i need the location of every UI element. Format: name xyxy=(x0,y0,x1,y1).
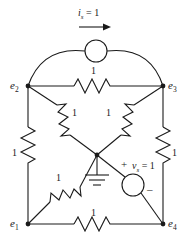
wire-voltage-source-to-e4 xyxy=(141,193,163,224)
resistor-label-bottom: 1 xyxy=(91,208,96,218)
voltage-source-subscript: s xyxy=(136,166,139,174)
resistor-label-e1-center: 1 xyxy=(56,173,61,183)
current-source-branch xyxy=(28,40,163,86)
resistor-e2-center-zigzag xyxy=(57,104,70,136)
voltage-source-plus-sign: + xyxy=(121,159,127,170)
node-label-e2: e2 xyxy=(10,80,19,94)
node-dot-e1 xyxy=(26,222,31,227)
resistor-bottom-zigzag xyxy=(74,217,117,231)
circuit-schematic-canvas xyxy=(0,0,190,241)
resistor-label-e2-center: 1 xyxy=(72,108,77,118)
branch-e2-center xyxy=(28,86,97,155)
node-dot-e3 xyxy=(161,84,166,89)
voltage-source-value: = 1 xyxy=(142,160,155,171)
voltage-source-symbol xyxy=(122,174,144,196)
current-source-symbol xyxy=(85,40,107,62)
circuit-diagram: e2 e3 e1 e4 1 1 1 1 1 1 1 is = 1 vs = 1 … xyxy=(0,0,190,241)
node-label-e3: e3 xyxy=(168,80,177,94)
wire-diag-resistor-to-center-from-e2 xyxy=(70,135,97,155)
resistor-label-e3-center: 1 xyxy=(106,108,111,118)
branch-e2-e3 xyxy=(28,79,163,93)
arc-wire-right xyxy=(107,50,163,86)
node-label-e1: e1 xyxy=(10,218,19,232)
voltage-source-minus-sign: – xyxy=(147,184,153,195)
node-subscript-e4: 4 xyxy=(173,223,177,232)
branch-e1-center xyxy=(28,155,97,224)
branch-e2-e1 xyxy=(21,86,35,224)
wire-e2-to-diag-resistor xyxy=(28,86,57,105)
current-direction-arrow-icon xyxy=(79,24,111,31)
resistor-left-zigzag xyxy=(21,127,35,170)
voltage-source-label: vs = 1 xyxy=(132,161,155,174)
branch-e3-e4 xyxy=(156,86,170,224)
node-dot-center xyxy=(95,153,100,158)
resistor-label-top: 1 xyxy=(91,66,96,76)
current-source-value: = 1 xyxy=(86,7,99,18)
resistor-label-left: 1 xyxy=(12,148,17,158)
node-subscript-e2: 2 xyxy=(15,85,19,94)
node-dot-e2 xyxy=(26,84,31,89)
node-subscript-e1: 1 xyxy=(15,223,19,232)
current-source-label: is = 1 xyxy=(78,8,99,21)
node-subscript-e3: 3 xyxy=(173,85,177,94)
resistor-e1-center-zigzag xyxy=(50,187,81,202)
wire-e1-to-diag-resistor xyxy=(28,202,50,224)
resistor-e3-center-zigzag xyxy=(121,104,134,136)
wire-e3-to-diag-resistor xyxy=(134,86,163,105)
wire-diag-resistor-to-center-from-e1 xyxy=(80,155,97,187)
wire-diag-resistor-to-center-from-e3 xyxy=(97,135,121,155)
branch-e3-center xyxy=(97,86,163,155)
node-label-e4: e4 xyxy=(168,218,177,232)
resistor-top-zigzag xyxy=(74,79,117,93)
current-source-subscript: s xyxy=(81,13,84,21)
resistor-right-zigzag xyxy=(156,127,170,170)
resistor-label-right: 1 xyxy=(172,148,177,158)
branch-e1-e4 xyxy=(28,217,163,231)
node-dot-e4 xyxy=(161,222,166,227)
